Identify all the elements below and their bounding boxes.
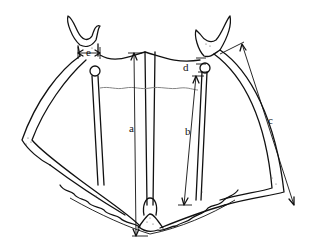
left-lateral-bar bbox=[22, 56, 140, 226]
anatomical-diagram: a b c d e bbox=[0, 0, 311, 249]
scalloped-lower-margin bbox=[60, 185, 238, 231]
label-a: a bbox=[129, 122, 134, 134]
wavy-reference-line bbox=[100, 87, 198, 90]
left-knob-rod bbox=[90, 66, 104, 185]
label-e: e bbox=[86, 46, 91, 58]
upper-margin-curve bbox=[100, 52, 200, 61]
measurement-e: e bbox=[78, 46, 100, 59]
label-d: d bbox=[183, 61, 189, 73]
label-c: c bbox=[268, 114, 273, 126]
right-knob-rod bbox=[196, 63, 210, 200]
measurement-b: b bbox=[178, 76, 204, 205]
label-b: b bbox=[185, 125, 191, 137]
right-upper-process bbox=[195, 16, 230, 57]
central-rod bbox=[138, 52, 163, 228]
